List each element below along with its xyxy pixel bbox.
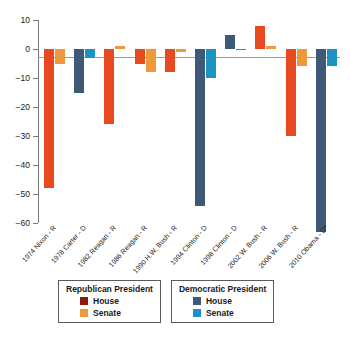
y-tick-label: −10: [16, 74, 30, 83]
democratic-senate-swatch: [193, 309, 201, 317]
bar-house: [74, 49, 84, 93]
y-tick-label: −40: [16, 161, 30, 170]
y-tick-label: −50: [16, 190, 30, 199]
bar-senate: [327, 49, 337, 66]
bar-group: [163, 20, 193, 223]
bar-group: [42, 20, 72, 223]
republican-house-swatch: [80, 297, 88, 305]
chart-figure: 100−10−20−30−40−50−60 1974 Nixon - R1978…: [0, 0, 350, 338]
y-tick-label: −60: [16, 219, 30, 228]
bar-house: [255, 26, 265, 49]
chart-legend: Republican President House Senate Democr…: [58, 280, 274, 323]
legend-item-democratic-house: House: [179, 296, 266, 306]
bar-group: [72, 20, 102, 223]
y-tick: [33, 136, 38, 137]
y-tick: [33, 194, 38, 195]
bar-house: [316, 49, 326, 232]
plot-area: 100−10−20−30−40−50−60: [38, 20, 340, 223]
legend-item-republican-house: House: [66, 296, 153, 306]
bar-house: [195, 49, 205, 206]
legend-democratic: Democratic President House Senate: [171, 280, 274, 323]
bar-group: [133, 20, 163, 223]
legend-democratic-senate-label: Senate: [206, 308, 234, 318]
y-tick: [33, 165, 38, 166]
y-axis-line: [38, 20, 39, 223]
legend-republican-title: Republican President: [66, 284, 153, 294]
bar-house: [44, 49, 54, 188]
bar-senate: [206, 49, 216, 78]
legend-republican-senate-label: Senate: [93, 308, 121, 318]
bar-group: [253, 20, 283, 223]
bar-group: [314, 20, 344, 223]
y-tick-label: −20: [16, 103, 30, 112]
bar-group: [223, 20, 253, 223]
legend-democratic-house-label: House: [206, 296, 232, 306]
legend-republican-house-label: House: [93, 296, 119, 306]
legend-item-democratic-senate: Senate: [179, 308, 266, 318]
bar-house: [104, 49, 114, 124]
bar-house: [286, 49, 296, 136]
bar-group: [284, 20, 314, 223]
y-tick: [33, 49, 38, 50]
bar-senate: [146, 49, 156, 72]
bar-senate: [176, 49, 186, 52]
bar-senate: [236, 49, 246, 50]
legend-item-republican-senate: Senate: [66, 308, 153, 318]
x-axis-labels: 1974 Nixon - R1978 Carter - D1982 Reagan…: [38, 224, 340, 282]
y-tick-label: −30: [16, 132, 30, 141]
bar-senate: [55, 49, 65, 64]
bar-group: [193, 20, 223, 223]
legend-republican: Republican President House Senate: [58, 280, 161, 323]
y-tick: [33, 78, 38, 79]
bar-senate: [115, 46, 125, 49]
bar-house: [225, 35, 235, 50]
bar-house: [135, 49, 145, 64]
y-tick-label: 0: [25, 45, 30, 54]
y-tick-label: 10: [21, 16, 30, 25]
bar-group: [102, 20, 132, 223]
democratic-house-swatch: [193, 297, 201, 305]
bar-senate: [297, 49, 307, 66]
y-tick: [33, 107, 38, 108]
legend-democratic-title: Democratic President: [179, 284, 266, 294]
y-tick: [33, 20, 38, 21]
republican-senate-swatch: [80, 309, 88, 317]
bar-senate: [266, 46, 276, 49]
bar-house: [165, 49, 175, 72]
bar-senate: [85, 49, 95, 58]
